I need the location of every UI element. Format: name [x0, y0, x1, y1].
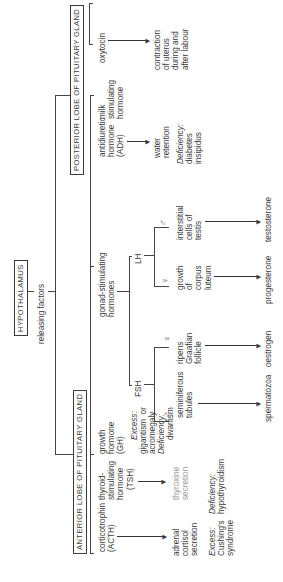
fsh-male-product: spermatozoa	[264, 375, 273, 422]
anterior-lobe-label: ANTERIOR LOBE OF PITUITARY GLAND	[75, 394, 84, 550]
adh-hormone: antidiuretic hormone (ADH)	[98, 117, 126, 157]
lh-female-product: progesterone	[264, 256, 273, 304]
adh-arrow-icon: ▼	[143, 138, 153, 146]
fsh-male-symbol: ♂	[162, 411, 172, 418]
oxytocin-hormone: oxytocin	[98, 33, 107, 63]
lh-connector	[144, 255, 154, 256]
anterior-bracket-line	[90, 95, 91, 554]
milk-tick	[90, 95, 94, 96]
oxytocin-arrow-icon: ▼	[143, 37, 153, 45]
oxytocin-arrow-line	[108, 40, 146, 41]
fsh-connector	[144, 384, 154, 385]
gonad-connector	[117, 291, 129, 292]
gh-tick	[90, 454, 94, 455]
posterior-lobe-label: POSTERIOR LOBE OF PITUITARY GLAND	[72, 9, 81, 171]
tsh-abbr: (TSH)	[126, 468, 135, 490]
lh-male-arrow-icon: ▼	[254, 218, 264, 226]
lh-male-symbol: ♂	[158, 219, 168, 226]
fsh-male-drop	[154, 421, 169, 422]
fsh-female-arrow-icon: ▼	[254, 342, 264, 350]
lh-female-arrow-line	[214, 276, 258, 277]
main-trunk-line	[55, 95, 56, 455]
hypothalamus-connector	[28, 291, 34, 292]
fsh-female-symbol: ♀	[162, 335, 172, 342]
lh-male-product: testosterone	[264, 197, 273, 242]
oxytocin-effect: contraction of uterus during and after l…	[153, 29, 190, 70]
fsh-lh-bracket	[129, 256, 130, 386]
lh-tick	[129, 256, 132, 257]
gh-excess-label: Excess:	[130, 411, 139, 440]
pituitary-hormone-diagram: HYPOTHALAMUS releasing factors ANTERIOR …	[0, 0, 283, 582]
milk-hormone: milk stimulating hormone	[98, 80, 126, 119]
lh-male-target: interstitial cells of testis	[176, 205, 204, 240]
adh-tick	[89, 44, 93, 45]
acth-excess: Cushing's syndrome	[217, 520, 235, 556]
posterior-lobe-box: POSTERIOR LOBE OF PITUITARY GLAND	[70, 5, 84, 175]
lh-female-target: growth of corpus luteum	[176, 265, 213, 290]
anterior-drop-line	[55, 454, 73, 455]
lh-female-symbol: ♀	[160, 277, 170, 284]
fsh-tick	[129, 385, 132, 386]
tsh-arrow-icon: ▼	[159, 478, 169, 486]
gonad-hormone: gonad-stimulating hormones	[98, 252, 116, 317]
lh-female-arrow-icon: ▼	[254, 273, 264, 281]
fsh-female-drop	[154, 347, 169, 348]
tsh-deficiency: hypothyroidism	[217, 459, 226, 514]
acth-arrow-line	[117, 536, 163, 537]
hypothalamus-label: HYPOTHALAMUS	[16, 264, 25, 332]
tsh-deficiency-label: Deficiency:	[208, 474, 217, 514]
acth-arrow-icon: ▼	[160, 533, 170, 541]
fsh-female-arrow-line	[205, 345, 258, 346]
lh-female-drop	[154, 286, 169, 287]
lh-male-drop	[154, 227, 169, 228]
acth-excess-label: Excess:	[208, 527, 217, 556]
posterior-bracket-line	[89, 3, 90, 45]
gonad-tick	[90, 266, 94, 267]
adh-deficiency-label: Deficiency:	[176, 124, 185, 164]
fsh-label: FSH	[134, 381, 143, 397]
fsh-male-arrow-line	[198, 403, 258, 404]
posterior-drop-line	[55, 95, 71, 96]
lh-branch	[154, 227, 155, 287]
acth-hormone: corticotrophin (ACTH)	[98, 503, 116, 552]
fsh-female-target: ripens Graafian follicle	[176, 333, 204, 364]
adh-deficiency: diabetes insipidus	[185, 132, 203, 164]
releasing-factors-label: releasing factors	[37, 284, 46, 344]
hypothalamus-box: HYPOTHALAMUS	[14, 260, 28, 336]
tsh-hormone: thyroid- stimulating hormone	[98, 461, 126, 500]
lh-male-arrow-line	[205, 221, 258, 222]
fsh-female-product: oestrogen	[264, 331, 273, 367]
acth-effect: adrenal cortisol secretion	[172, 523, 200, 556]
lh-label: LH	[134, 254, 143, 264]
adh-effect: water retention	[153, 126, 171, 158]
anterior-lobe-box: ANTERIOR LOBE OF PITUITARY GLAND	[73, 390, 87, 554]
gh-deficiency-label: Deficiency:	[157, 414, 166, 454]
releasing-connector	[48, 291, 55, 292]
fsh-male-arrow-icon: ▼	[254, 400, 264, 408]
gh-hormone: growth hormone (GH)	[98, 422, 126, 454]
acth-tick	[90, 553, 94, 554]
tsh-effect: thyroxine secretion	[172, 467, 190, 500]
oxytocin-tick	[89, 3, 93, 4]
fsh-branch	[154, 347, 155, 422]
fsh-male-target: seminiferous tubules	[176, 372, 194, 418]
